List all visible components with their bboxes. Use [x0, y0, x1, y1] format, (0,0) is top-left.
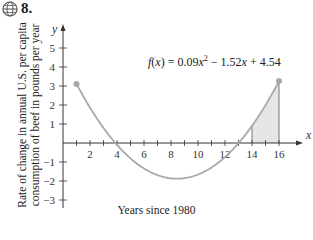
- x-tick-label: 14: [247, 148, 259, 160]
- x-axis-label: Years since 1980: [0, 204, 313, 216]
- x-axis-name: x: [305, 128, 312, 142]
- x-tick-label: 16: [274, 148, 286, 160]
- x-tick-label: 8: [168, 148, 174, 160]
- x-tick-label: 10: [193, 148, 205, 160]
- y-axis-label: Rate of change in annual U.S. per capita…: [6, 40, 52, 190]
- y-axis-name: y: [51, 22, 58, 36]
- endpoint-dot: [276, 78, 282, 84]
- x-tick-label: 4: [114, 148, 120, 160]
- endpoint-dot: [74, 81, 80, 87]
- function-label: f(x) = 0.09x2 − 1.52x + 4.54: [148, 54, 281, 70]
- x-tick-label: 2: [87, 148, 93, 160]
- y-axis-arrow: [61, 24, 66, 31]
- function-curve: [77, 81, 280, 179]
- x-axis-arrow: [296, 141, 303, 146]
- x-tick-label: 6: [141, 148, 147, 160]
